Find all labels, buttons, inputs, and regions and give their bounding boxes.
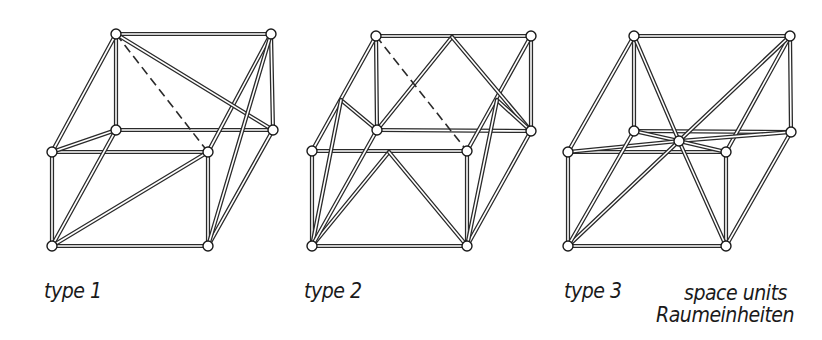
strut-core	[634, 36, 679, 141]
hidden-edge-dashed	[376, 36, 467, 151]
strut-core	[208, 34, 271, 246]
node-joint	[526, 31, 536, 41]
node-joint	[629, 31, 639, 41]
strut-core	[312, 152, 389, 246]
node-joint	[371, 31, 381, 41]
node-joint	[462, 146, 472, 156]
node-joint	[47, 147, 57, 157]
strut-core	[52, 152, 208, 246]
strut-core	[341, 100, 377, 130]
node-joint	[721, 147, 731, 157]
strut-core	[312, 36, 376, 151]
node-joint	[372, 125, 382, 135]
strut-core	[208, 130, 273, 246]
strut-core	[116, 34, 273, 130]
label-type-1: type 1	[44, 277, 102, 302]
strut-core	[497, 100, 531, 131]
label-type-3: type 3	[564, 277, 622, 302]
node-joint	[111, 29, 121, 39]
node-joint	[203, 241, 213, 251]
node-joint	[307, 146, 317, 156]
node-joint	[526, 126, 536, 136]
node-joint	[721, 241, 731, 251]
strut-core	[679, 141, 726, 246]
strut-core	[568, 141, 679, 246]
node-joint	[268, 125, 278, 135]
node-joint	[203, 147, 213, 157]
node-joint	[462, 241, 472, 251]
node-joint	[785, 31, 795, 41]
label-type-2: type 2	[304, 277, 362, 302]
hidden-edge-dashed	[116, 34, 208, 152]
strut-core	[467, 131, 531, 246]
figure-type-3	[563, 31, 796, 251]
strut-core	[568, 36, 634, 152]
figure-type-2	[307, 31, 536, 251]
node-joint	[47, 241, 57, 251]
label-raumeinheiten: Raumeinheiten	[656, 301, 794, 326]
node-joint	[629, 126, 639, 136]
node-joint	[266, 29, 276, 39]
figure-type-1	[47, 29, 278, 251]
node-joint	[563, 241, 573, 251]
strut-core	[377, 130, 531, 131]
node-joint	[563, 147, 573, 157]
node-joint	[786, 127, 796, 137]
node-joint	[674, 136, 684, 146]
strut-core	[790, 36, 791, 132]
strut-core	[389, 152, 467, 246]
strut-core	[376, 36, 377, 130]
nodes	[307, 31, 536, 251]
struts	[312, 36, 531, 246]
node-joint	[111, 125, 121, 135]
struts	[52, 34, 273, 246]
node-joint	[307, 241, 317, 251]
strut-core	[679, 36, 790, 141]
strut-core	[726, 132, 791, 246]
